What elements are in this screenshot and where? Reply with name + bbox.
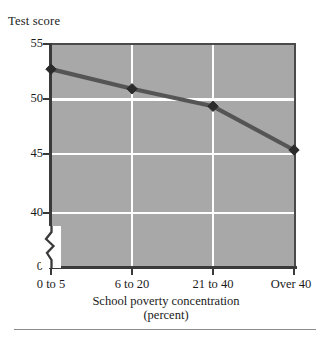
data-series-layer xyxy=(0,0,332,344)
data-point-0-to-5 xyxy=(46,64,56,74)
x-axis-title-line2: (percent) xyxy=(0,308,332,322)
x-axis-title-line1: School poverty concentration xyxy=(92,294,239,308)
x-axis-title: School poverty concentration (percent) xyxy=(0,294,332,322)
data-point-6-to-20 xyxy=(127,84,137,94)
data-line xyxy=(51,69,294,150)
figure: Test score 55 50 45 40 0 0 to 5 6 to 20 … xyxy=(0,0,332,344)
bottom-divider xyxy=(14,329,316,330)
